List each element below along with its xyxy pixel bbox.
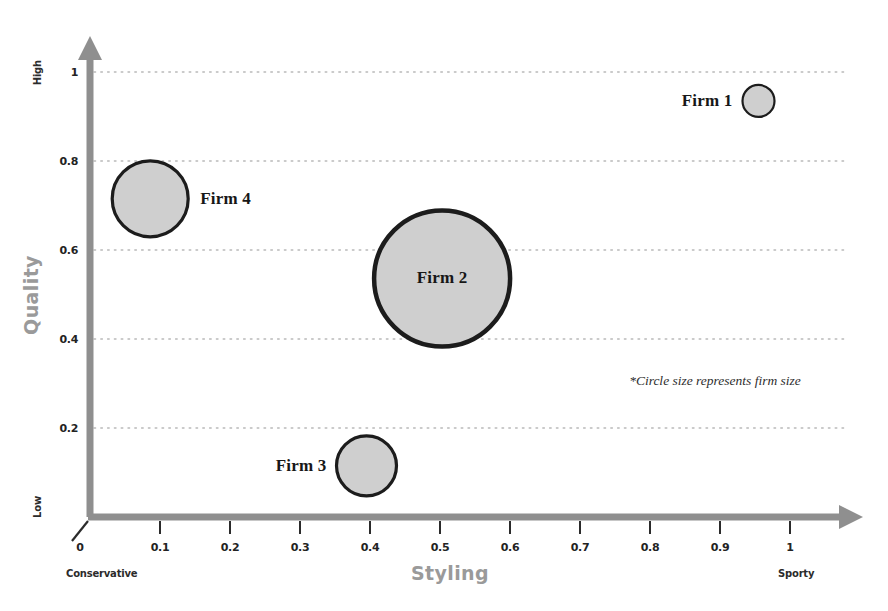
- y-tick-label: 0.4: [52, 333, 78, 346]
- bubble-chart: 00.10.20.30.40.50.60.70.80.910.20.40.60.…: [0, 0, 888, 611]
- x-tick-label: 0.6: [501, 541, 520, 554]
- tick-marks: [160, 521, 790, 534]
- x-tick-label: 0.9: [711, 541, 730, 554]
- y-axis-low-label: Low: [32, 496, 43, 518]
- x-tick-label: 0.5: [431, 541, 450, 554]
- origin-tick-mark: [72, 521, 88, 541]
- x-axis-arrowhead: [839, 505, 863, 529]
- y-axis-arrowhead: [78, 36, 102, 60]
- x-axis-title: Styling: [411, 562, 489, 584]
- x-tick-label: 0.7: [571, 541, 590, 554]
- x-axis-high-label: Sporty: [778, 568, 814, 579]
- y-tick-label: 1: [52, 66, 78, 79]
- y-tick-label: 0.2: [52, 422, 78, 435]
- x-tick-label: 1: [786, 541, 793, 554]
- bubble-firm-4[interactable]: [112, 161, 188, 237]
- y-tick-label: 0.6: [52, 244, 78, 257]
- x-tick-label: 0.8: [641, 541, 660, 554]
- chart-canvas: [0, 0, 888, 611]
- x-tick-label: 0: [76, 541, 83, 554]
- bubble-label: Firm 3: [276, 456, 327, 476]
- x-tick-label: 0.2: [221, 541, 240, 554]
- bubble-label: Firm 1: [682, 91, 733, 111]
- x-tick-label: 0.3: [291, 541, 310, 554]
- x-tick-label: 0.1: [151, 541, 170, 554]
- bubble-label: Firm 2: [417, 268, 468, 288]
- bubbles: [112, 85, 774, 496]
- bubble-firm-1[interactable]: [743, 85, 775, 117]
- bubble-label: Firm 4: [200, 189, 251, 209]
- y-tick-label: 0.8: [52, 155, 78, 168]
- x-tick-label: 0.4: [361, 541, 380, 554]
- y-axis-high-label: High: [32, 60, 43, 85]
- size-legend-note: *Circle size represents firm size: [629, 373, 801, 389]
- y-axis-title: Quality: [20, 255, 42, 335]
- x-axis-low-label: Conservative: [66, 568, 137, 579]
- bubble-firm-3[interactable]: [337, 436, 397, 496]
